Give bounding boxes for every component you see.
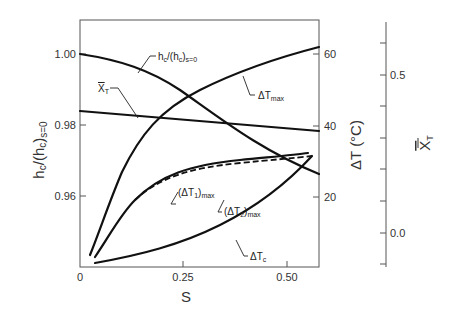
xt-axis-title: XT bbox=[416, 135, 435, 151]
y2-tick-label: 60 bbox=[324, 48, 336, 60]
left-y-axis-title: hc/(hc)s=0 bbox=[30, 121, 49, 179]
x-tick-label: 0.25 bbox=[172, 271, 193, 283]
y-tick-label: 0.98 bbox=[55, 119, 76, 131]
y2-tick-label: 40 bbox=[324, 120, 336, 132]
svg-text:hc/(hc)s=0: hc/(hc)s=0 bbox=[30, 121, 49, 179]
label-dtc: ΔTc bbox=[250, 251, 267, 263]
y3-tick-label: 0.5 bbox=[390, 69, 405, 81]
xt-axis bbox=[380, 22, 386, 267]
chart: 0 0.25 0.50 S 1.00 0.98 0.96 hc/(hc)s=0 … bbox=[0, 0, 458, 322]
y-tick-label: 0.96 bbox=[55, 190, 76, 202]
x-tick-label: 0 bbox=[77, 271, 83, 283]
right-y-axis-title: ΔT (°C) bbox=[347, 120, 364, 170]
label-dt1max: (ΔT1)max bbox=[178, 187, 215, 199]
y-tick-label: 1.00 bbox=[55, 48, 76, 60]
right-y-axis bbox=[313, 54, 319, 197]
x-axis bbox=[183, 261, 287, 267]
y3-tick-label: 0.0 bbox=[390, 227, 405, 239]
x-axis-title: S bbox=[181, 288, 191, 305]
label-xt: XT bbox=[98, 83, 110, 95]
label-hc: hc/(hc)s=0 bbox=[158, 51, 197, 63]
curve-xt bbox=[80, 111, 319, 131]
svg-text:ΔT (°C): ΔT (°C) bbox=[347, 120, 364, 170]
svg-text:XT: XT bbox=[416, 135, 435, 151]
left-y-axis bbox=[80, 54, 86, 196]
x-tick-label: 0.50 bbox=[276, 271, 297, 283]
y2-tick-label: 20 bbox=[324, 191, 336, 203]
leaders bbox=[110, 56, 255, 256]
label-dt2max: (ΔT2)max bbox=[224, 206, 261, 218]
label-dtmax: ΔTmax bbox=[258, 90, 285, 102]
curve-dtmax bbox=[90, 47, 319, 255]
